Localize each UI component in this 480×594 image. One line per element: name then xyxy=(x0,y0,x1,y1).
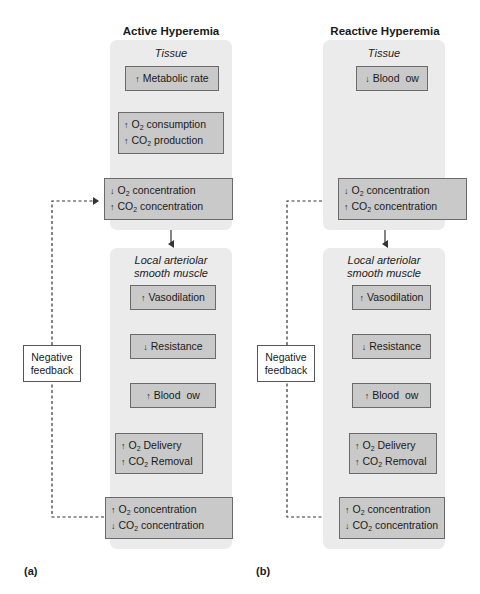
down-arrow-icon: ↓ xyxy=(110,186,115,196)
node-o2-consumption: ↑O2 consumption ↑CO2 production xyxy=(118,112,224,154)
node-vasodilation: ↑Vasodilation xyxy=(130,285,216,310)
tissue-label: Tissue xyxy=(323,47,445,60)
node-resistance: ↓Resistance xyxy=(130,334,216,359)
negative-feedback-label: Negativefeedback xyxy=(23,345,81,382)
up-arrow-icon: ↑ xyxy=(146,391,151,401)
node-blood-flow-decrease: ↓Blood ow xyxy=(356,66,428,91)
panel-b-label: (b) xyxy=(256,565,270,577)
up-arrow-icon: ↑ xyxy=(365,391,370,401)
node-tissue-concentration: ↓O2 concentration ↑CO2 concentration xyxy=(338,178,467,220)
muscle-label: Local arteriolarsmooth muscle xyxy=(110,254,232,280)
up-arrow-icon: ↑ xyxy=(110,202,115,212)
down-arrow-icon: ↓ xyxy=(345,521,350,531)
up-arrow-icon: ↑ xyxy=(344,202,349,212)
negative-feedback-label: Negativefeedback xyxy=(257,345,315,382)
node-tissue-concentration: ↓O2 concentration ↑CO2 concentration xyxy=(104,178,233,220)
down-arrow-icon: ↓ xyxy=(362,342,367,352)
down-arrow-icon: ↓ xyxy=(365,74,370,84)
node-delivery-removal: ↑O2 Delivery ↑CO2 Removal xyxy=(115,433,203,474)
down-arrow-icon: ↓ xyxy=(344,186,349,196)
up-arrow-icon: ↑ xyxy=(141,293,146,303)
node-vasodilation: ↑Vasodilation xyxy=(352,285,431,310)
panel-a-label: (a) xyxy=(24,565,37,577)
up-arrow-icon: ↑ xyxy=(355,457,360,467)
up-arrow-icon: ↑ xyxy=(355,441,360,451)
node-final-concentration: ↑O2 concentration ↓CO2 concentration xyxy=(105,497,233,539)
panel-a-title: Active Hyperemia xyxy=(110,25,232,37)
up-arrow-icon: ↑ xyxy=(135,74,140,84)
up-arrow-icon: ↑ xyxy=(360,293,365,303)
up-arrow-icon: ↑ xyxy=(111,505,116,515)
node-final-concentration: ↑O2 concentration ↓CO2 concentration xyxy=(339,497,445,539)
tissue-label: Tissue xyxy=(110,47,232,60)
up-arrow-icon: ↑ xyxy=(124,136,129,146)
node-delivery-removal: ↑O2 Delivery ↑CO2 Removal xyxy=(349,433,437,474)
node-resistance: ↓Resistance xyxy=(352,334,431,359)
down-arrow-icon: ↓ xyxy=(143,342,148,352)
panel-b-title: Reactive Hyperemia xyxy=(314,25,456,37)
up-arrow-icon: ↑ xyxy=(121,457,126,467)
node-metabolic-rate: ↑Metabolic rate xyxy=(125,66,219,91)
node-blood-flow: ↑Blood ow xyxy=(130,383,216,408)
down-arrow-icon: ↓ xyxy=(111,521,116,531)
up-arrow-icon: ↑ xyxy=(121,441,126,451)
up-arrow-icon: ↑ xyxy=(124,120,129,130)
up-arrow-icon: ↑ xyxy=(345,505,350,515)
node-blood-flow: ↑Blood ow xyxy=(352,383,431,408)
muscle-label: Local arteriolarsmooth muscle xyxy=(323,254,445,280)
